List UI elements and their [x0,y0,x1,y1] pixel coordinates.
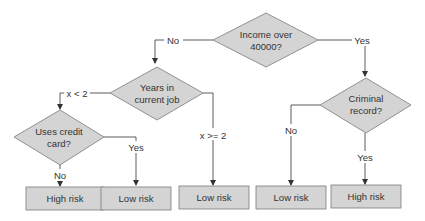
edge-credit-yes [104,137,136,141]
outcome-3-label: Low risk [197,192,232,203]
edge-label-criminal-no: No [285,125,297,136]
decision-node-years: Years in current job [110,67,203,120]
decision-node-income: Income over 40000? [213,13,318,67]
decision-credit-line2: card? [47,138,71,149]
decision-income-line1: Income over [240,29,292,40]
outcome-node-4: Low risk [256,186,326,209]
decision-criminal-line1: Criminal [349,93,384,104]
decision-years-line1: Years in [140,82,174,93]
outcome-node-3: Low risk [179,186,249,209]
outcome-2-label: Low risk [119,193,154,204]
outcome-node-1: High risk [26,187,104,210]
edge-label-income-yes: Yes [354,35,370,46]
edge-label-credit-yes: Yes [128,142,144,153]
edge-criminal-no [291,105,320,124]
decision-credit-line1: Uses credit [35,126,83,137]
outcome-5-label: High risk [348,191,385,202]
edge-label-income-no: No [167,35,179,46]
edge-label-criminal-yes: Yes [357,152,373,163]
decision-years-line2: current job [135,94,180,105]
edge-years-ge2 [203,93,213,128]
edge-label-credit-no: No [54,170,66,181]
decision-income-line2: 40000? [250,41,282,52]
edge-label-years-ge2: x >= 2 [200,130,226,141]
decision-node-criminal: Criminal record? [320,78,411,133]
outcome-1-label: High risk [47,193,84,204]
edge-years-lt2-2 [60,93,64,109]
outcome-node-2: Low risk [101,187,171,210]
decision-node-credit: Uses credit card? [14,110,104,165]
outcome-node-5: High risk [331,185,401,208]
decision-tree-diagram: No Yes x < 2 x >= 2 No Yes No Yes Income… [0,0,425,221]
outcome-4-label: Low risk [274,192,309,203]
edge-label-years-lt2: x < 2 [67,88,88,99]
edges [60,40,365,186]
edge-income-no-2 [155,40,164,63]
decision-criminal-line2: record? [350,105,382,116]
